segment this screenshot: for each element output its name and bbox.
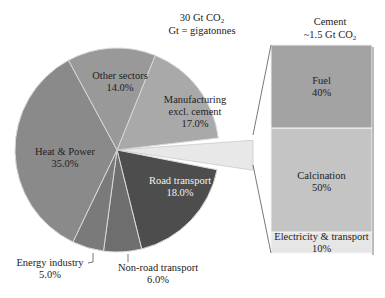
label-non-road-transport: Non-road transport6.0% bbox=[108, 262, 208, 286]
label-electricity-transport: Electricity & transport10% bbox=[266, 231, 377, 255]
bar-shadow bbox=[372, 47, 374, 255]
label-manufacturing: Manufacturingexcl. cement17.0% bbox=[150, 94, 240, 130]
cement-title: Cement bbox=[280, 16, 380, 28]
label-heat-power: Heat & Power35.0% bbox=[20, 146, 110, 170]
chart-subtitle: Gt = gigatonnes bbox=[157, 25, 247, 37]
cement-subtitle: ~1.5 Gt CO2 bbox=[280, 29, 380, 44]
connector-line-top bbox=[253, 45, 271, 135]
label-fuel: Fuel40% bbox=[271, 75, 372, 99]
label-calcination: Calcination50% bbox=[271, 170, 372, 194]
label-other-sectors: Other sectors14.0% bbox=[75, 70, 165, 94]
label-road-transport: Road transport18.0% bbox=[135, 175, 225, 199]
label-energy-industry: Energy industry5.0% bbox=[10, 257, 90, 281]
